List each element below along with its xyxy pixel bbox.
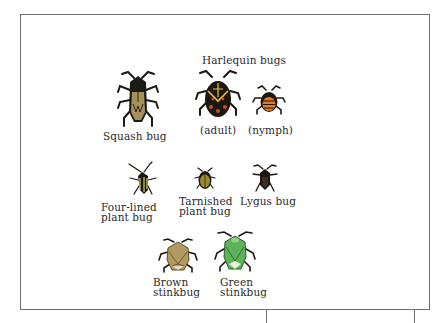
squash-bug-label: Squash bug <box>103 131 167 142</box>
four-lined-plant-bug-icon <box>128 162 158 196</box>
tarnished-plant-bug-icon <box>194 167 216 191</box>
green-stinkbug-label-line2: stinkbug <box>220 287 267 298</box>
lygus-bug-icon <box>252 165 278 193</box>
tarnished-plant-bug-label-line2: plant bug <box>179 206 231 217</box>
harlequin-nymph-label: (nymph) <box>248 125 293 136</box>
lygus-bug-label: Lygus bug <box>240 196 296 207</box>
harlequin-nymph-icon <box>253 86 285 116</box>
harlequin-adult-label: (adult) <box>200 125 236 136</box>
brown-stinkbug-icon <box>158 238 198 274</box>
harlequin-adult-icon <box>194 69 242 121</box>
frame-tick-right <box>414 310 415 323</box>
brown-stinkbug-label-line2: stinkbug <box>153 287 200 298</box>
harlequin-group-title: Harlequin bugs <box>202 55 286 66</box>
squash-bug-icon <box>114 68 162 128</box>
frame-tick-left <box>266 310 267 323</box>
green-stinkbug-icon <box>214 231 256 273</box>
four-lined-plant-bug-label-line2: plant bug <box>101 212 153 223</box>
